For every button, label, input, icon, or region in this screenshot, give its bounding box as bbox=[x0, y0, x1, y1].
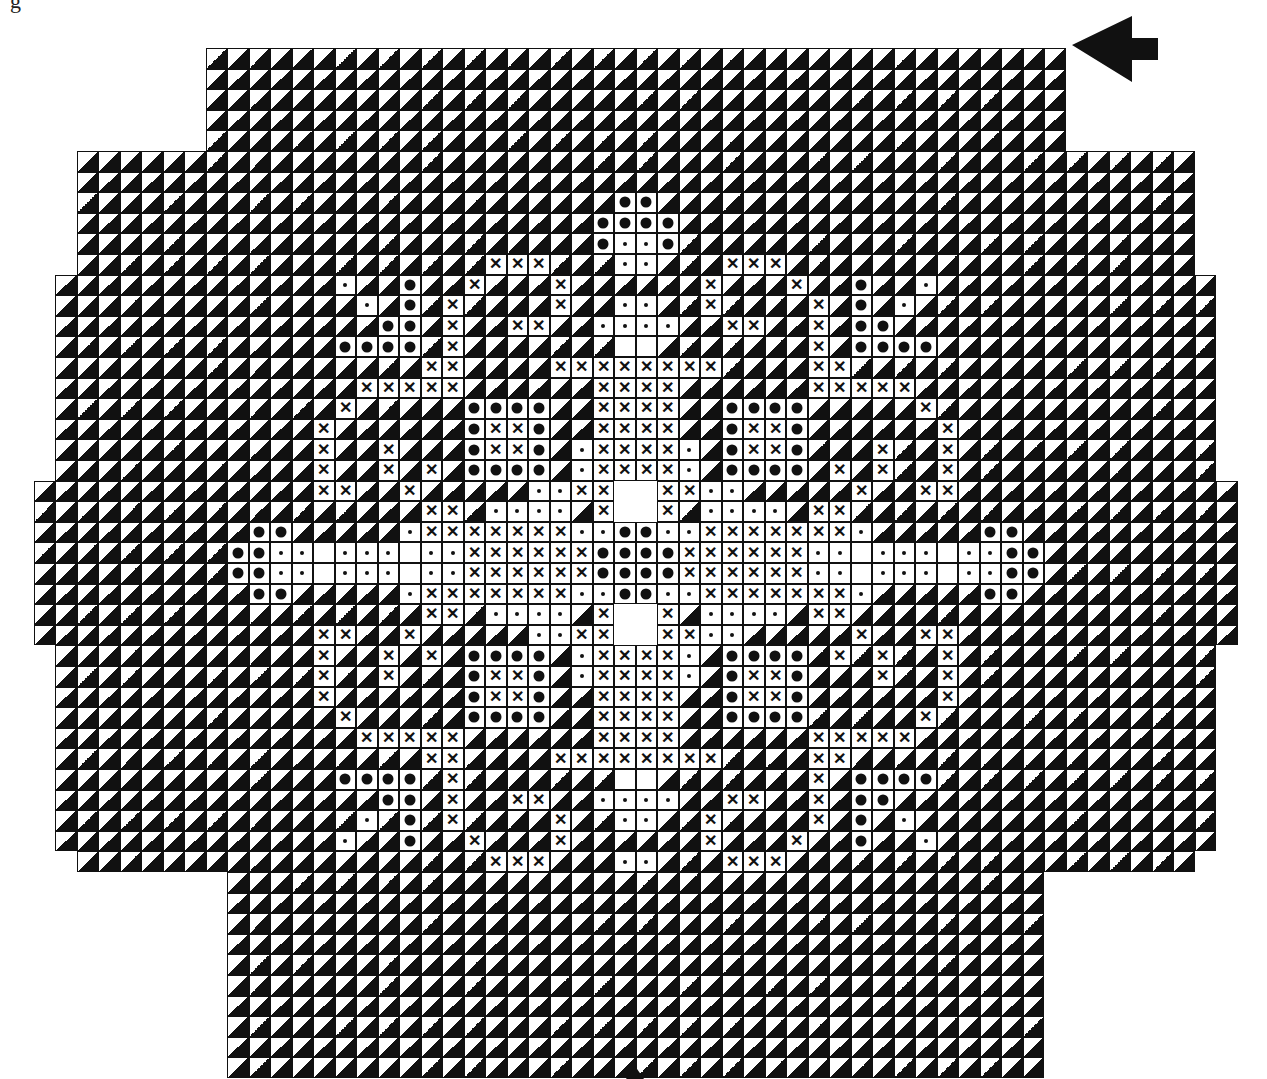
triangle-cell bbox=[550, 130, 572, 151]
triangle-cell bbox=[786, 1057, 808, 1078]
cross-icon: ✕ bbox=[809, 585, 829, 604]
triangle-cell bbox=[980, 645, 1002, 666]
small-dot-cell bbox=[528, 481, 550, 502]
triangle-cell bbox=[1044, 316, 1066, 337]
cross-cell: ✕ bbox=[593, 357, 615, 378]
triangle-cell bbox=[894, 233, 916, 254]
triangle-cell bbox=[894, 872, 916, 893]
triangle-cell bbox=[206, 522, 228, 543]
triangle-cell bbox=[378, 748, 400, 769]
cross-cell: ✕ bbox=[485, 542, 507, 563]
small-dot-cell bbox=[657, 790, 679, 811]
triangle-cell bbox=[958, 934, 980, 955]
small-dot-cell bbox=[915, 275, 937, 296]
triangle-cell bbox=[743, 996, 765, 1017]
cross-icon: ✕ bbox=[615, 729, 635, 748]
triangle-cell bbox=[872, 1057, 894, 1078]
triangle-cell bbox=[141, 831, 163, 852]
triangle-cell bbox=[571, 48, 593, 69]
triangle-cell bbox=[829, 110, 851, 131]
triangle-cell bbox=[313, 501, 335, 522]
triangle-cell bbox=[915, 996, 937, 1017]
triangle-cell bbox=[657, 996, 679, 1017]
cross-icon: ✕ bbox=[379, 440, 399, 459]
cross-icon: ✕ bbox=[873, 461, 893, 480]
cross-icon: ✕ bbox=[572, 626, 592, 645]
triangle-cell bbox=[571, 975, 593, 996]
triangle-cell bbox=[722, 769, 744, 790]
triangle-cell bbox=[1195, 810, 1217, 831]
small-dot-icon bbox=[666, 798, 670, 802]
triangle-cell bbox=[227, 687, 249, 708]
large-dot-cell bbox=[915, 769, 937, 790]
triangle-cell bbox=[120, 378, 142, 399]
triangle-cell bbox=[313, 522, 335, 543]
triangle-cell bbox=[743, 913, 765, 934]
large-dot-icon bbox=[469, 444, 480, 455]
triangle-cell bbox=[206, 769, 228, 790]
triangle-cell bbox=[335, 584, 357, 605]
triangle-cell bbox=[163, 851, 185, 872]
cross-icon: ✕ bbox=[615, 708, 635, 727]
triangle-cell bbox=[249, 460, 271, 481]
triangle-cell bbox=[184, 645, 206, 666]
small-dot-cell bbox=[980, 542, 1002, 563]
small-dot-cell bbox=[743, 604, 765, 625]
small-dot-cell bbox=[571, 666, 593, 687]
large-dot-cell bbox=[485, 460, 507, 481]
cross-cell: ✕ bbox=[485, 419, 507, 440]
triangle-cell bbox=[657, 769, 679, 790]
large-dot-icon bbox=[533, 465, 544, 476]
triangle-cell bbox=[356, 130, 378, 151]
cross-cell: ✕ bbox=[614, 748, 636, 769]
triangle-cell bbox=[270, 151, 292, 172]
triangle-cell bbox=[1023, 378, 1045, 399]
triangle-cell bbox=[1023, 172, 1045, 193]
triangle-cell bbox=[808, 213, 830, 234]
triangle-cell bbox=[894, 460, 916, 481]
triangle-cell bbox=[356, 707, 378, 728]
triangle-cell bbox=[249, 954, 271, 975]
triangle-cell bbox=[636, 275, 658, 296]
triangle-cell bbox=[184, 522, 206, 543]
cross-icon: ✕ bbox=[723, 585, 743, 604]
cross-icon: ✕ bbox=[572, 749, 592, 768]
small-dot-icon bbox=[902, 571, 906, 575]
cross-cell: ✕ bbox=[722, 522, 744, 543]
triangle-cell bbox=[958, 130, 980, 151]
small-dot-cell bbox=[636, 790, 658, 811]
triangle-cell bbox=[872, 810, 894, 831]
triangle-cell bbox=[485, 1057, 507, 1078]
triangle-cell bbox=[313, 893, 335, 914]
triangle-cell bbox=[1023, 872, 1045, 893]
large-dot-cell bbox=[743, 460, 765, 481]
cross-cell: ✕ bbox=[335, 481, 357, 502]
triangle-cell bbox=[313, 996, 335, 1017]
cross-icon: ✕ bbox=[486, 255, 506, 274]
cross-icon: ✕ bbox=[830, 585, 850, 604]
triangle-cell bbox=[1066, 748, 1088, 769]
triangle-cell bbox=[915, 584, 937, 605]
triangle-cell bbox=[270, 625, 292, 646]
triangle-cell bbox=[872, 151, 894, 172]
triangle-cell bbox=[1023, 151, 1045, 172]
triangle-cell bbox=[442, 89, 464, 110]
triangle-cell bbox=[442, 110, 464, 131]
large-dot-cell bbox=[722, 645, 744, 666]
small-dot-cell bbox=[550, 501, 572, 522]
triangle-cell bbox=[829, 419, 851, 440]
triangle-cell bbox=[1001, 172, 1023, 193]
triangle-cell bbox=[55, 769, 77, 790]
cross-icon: ✕ bbox=[314, 688, 334, 707]
triangle-cell bbox=[184, 460, 206, 481]
triangle-cell bbox=[1195, 645, 1217, 666]
triangle-cell bbox=[1173, 831, 1195, 852]
triangle-cell bbox=[894, 666, 916, 687]
triangle-cell bbox=[1195, 728, 1217, 749]
triangle-cell bbox=[765, 130, 787, 151]
triangle-cell bbox=[163, 810, 185, 831]
cross-cell: ✕ bbox=[421, 378, 443, 399]
triangle-cell bbox=[1152, 233, 1174, 254]
triangle-cell bbox=[507, 934, 529, 955]
large-dot-cell bbox=[464, 439, 486, 460]
